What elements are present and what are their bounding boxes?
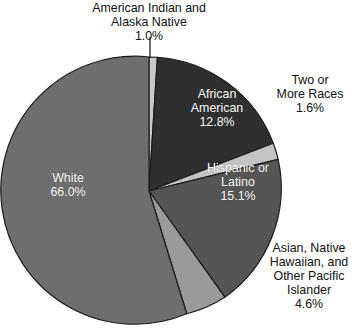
slice-label-line-1: Hispanic or [207, 161, 269, 175]
slice-label-white: White 66.0% [30, 172, 106, 200]
slice-label-line-1: Asian, Native [272, 241, 345, 255]
slice-label-line-3: Other Pacific [274, 269, 345, 283]
slice-label-line-1: American Indian and [92, 1, 206, 15]
slice-label-african-american: African American 12.8% [178, 88, 256, 130]
pie-chart-figure: American Indian and Alaska Native 1.0% T… [0, 0, 364, 336]
slice-percent-african-american: 12.8% [178, 116, 256, 130]
slice-label-line-2: Alaska Native [111, 15, 187, 29]
slice-label-line-2: Hawaiian, and [270, 255, 349, 269]
slice-label-line-2: More Races [277, 87, 344, 101]
slice-label-line-1: African [198, 87, 237, 101]
slice-label-hispanic-or-latino: Hispanic or Latino 15.1% [196, 162, 280, 204]
slice-percent-hispanic-or-latino: 15.1% [196, 190, 280, 204]
slice-label-line-4: Islander [287, 283, 331, 297]
slice-percent-asian-native-hawaiian-other-pacific-islander: 4.6% [256, 298, 362, 312]
slice-label-line-2: American [191, 101, 243, 115]
slice-label-line-2: Latino [221, 175, 255, 189]
slice-percent-american-indian-and-alaska-native: 1.0% [78, 30, 220, 44]
slice-label-asian-native-hawaiian-other-pacific-islander: Asian, Native Hawaiian, and Other Pacifi… [256, 242, 362, 311]
slice-label-line-1: White [52, 171, 84, 185]
slice-percent-white: 66.0% [30, 186, 106, 200]
slice-percent-two-or-more-races: 1.6% [262, 102, 358, 116]
slice-label-line-1: Two or [291, 73, 328, 87]
slice-label-two-or-more-races: Two or More Races 1.6% [262, 74, 358, 116]
slice-label-american-indian-and-alaska-native: American Indian and Alaska Native 1.0% [78, 2, 220, 44]
